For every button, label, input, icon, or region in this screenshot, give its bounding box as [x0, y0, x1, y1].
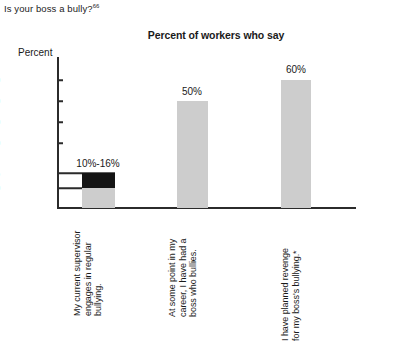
x-category-label-3-line-2: for my boss's bullying.*	[291, 248, 302, 341]
x-category-label-2-line-3: boss who bullies.	[188, 238, 199, 317]
x-category-label-1-line-3: bullying.	[93, 231, 104, 316]
x-category-label-1-line-2: engages in regular	[83, 231, 94, 316]
x-category-label-1: My current supervisor engages in regular…	[72, 231, 104, 316]
bar-1-value-label: 10%-16%	[76, 158, 119, 169]
bar-2-value-label: 50%	[182, 86, 202, 97]
y-tick-mark-60	[58, 79, 63, 81]
plot-area: 60 50 40 30 16 10 10%-16% 50%	[0, 0, 396, 348]
bar-chart-figure: Is your boss a bully?66 Percent of worke…	[0, 0, 396, 348]
x-category-label-2-line-1: At some point in my	[167, 238, 178, 317]
bar-2	[177, 101, 208, 208]
y-tick-mark-40	[58, 121, 63, 123]
x-category-label-2: At some point in my career, I have had a…	[167, 238, 199, 317]
bar-1-highlight-band	[82, 173, 115, 188]
x-category-label-1-line-1: My current supervisor	[72, 231, 83, 316]
y-tick-mark-30	[58, 142, 63, 144]
bar-3-value-label: 60%	[286, 64, 306, 75]
x-category-label-2-line-2: career, I have had a	[178, 238, 189, 317]
y-tick-mark-50	[58, 100, 63, 102]
x-category-label-3-line-1: I have planned revenge	[280, 248, 291, 341]
x-category-label-3: I have planned revenge for my boss's bul…	[280, 248, 301, 341]
bar-3	[281, 80, 311, 208]
